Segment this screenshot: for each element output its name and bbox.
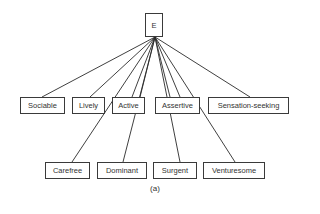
edge-lively [90,37,155,97]
edge-sociable [42,37,155,97]
root-node-e: E [145,13,163,37]
node-sociable: Sociable [20,97,65,114]
node-assertive: Assertive [155,97,200,114]
node-surgent: Surgent [153,162,197,179]
figure-caption: (a) [135,184,175,193]
node-active: Active [112,97,145,114]
node-lively: Lively [72,97,105,114]
edge-sensation-seeking [155,37,250,97]
node-sensation-seeking: Sensation-seeking [208,97,289,114]
node-carefree: Carefree [45,162,90,179]
node-dominant: Dominant [97,162,147,179]
node-venturesome: Venturesome [203,162,265,179]
